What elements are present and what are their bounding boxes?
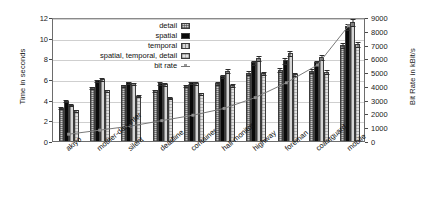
bit-rate-marker [67,133,70,136]
legend-swatch-icon [181,33,190,39]
legend-item: bit rate [100,61,190,70]
y-tick-mark-right [365,101,368,102]
y-axis-title-right: Bit Rate in kBit/s [408,17,417,137]
y-tick-label-right: 2000 [371,110,401,119]
y-tick-label-right: 1000 [371,124,401,133]
y-tick-label-left: 2 [26,117,48,126]
y-tick-label-right: 9000 [371,14,401,23]
legend-item: spatial [100,31,190,40]
plot-area [52,18,365,142]
legend-item: detail [100,21,190,30]
bit-rate-marker [160,119,163,122]
legend-swatch-icon [181,43,190,49]
y-tick-mark-right [365,32,368,33]
bit-rate-marker [285,81,288,84]
bit-rate-marker [347,24,350,27]
legend-label: detail [159,21,177,30]
y-tick-mark-right [365,18,368,19]
legend-item: temporal [100,41,190,50]
y-tick-mark-right [365,142,368,143]
y-tick-label-right: 5000 [371,69,401,78]
legend-swatch-icon [181,53,190,59]
y-tick-label-right: 6000 [371,55,401,64]
y-tick-label-right: 7000 [371,42,401,51]
y-tick-mark-right [365,114,368,115]
y-tick-label-right: 8000 [371,28,401,37]
legend-label: bit rate [154,61,177,70]
legend-line-icon [181,63,190,69]
y-tick-mark-right [365,59,368,60]
y-tick-label-right: 0 [371,138,401,147]
y-tick-label-left: 10 [26,35,48,44]
bit-rate-marker [98,129,101,132]
y-tick-mark-right [365,73,368,74]
y-tick-mark-right [365,46,368,47]
y-tick-label-left: 6 [26,76,48,85]
chart-legend: detailspatialtemporalspatial, temporal, … [100,21,190,70]
legend-item: spatial, temporal, detail [100,51,190,60]
legend-swatch-icon [181,23,190,29]
legend-label: spatial [155,31,177,40]
y-tick-label-left: 4 [26,97,48,106]
y-tick-mark-right [365,87,368,88]
y-tick-label-left: 12 [26,14,48,23]
bit-rate-marker [316,64,319,67]
bar-chart-figure: Time in seconds Bit Rate in kBit/s 02468… [0,0,434,212]
bit-rate-marker [223,107,226,110]
y-tick-mark-right [365,128,368,129]
y-tick-label-left: 0 [26,138,48,147]
y-tick-mark-left [49,142,52,143]
y-tick-label-right: 4000 [371,83,401,92]
bit-rate-marker [254,96,257,99]
legend-label: spatial, temporal, detail [100,51,177,60]
y-tick-label-right: 3000 [371,97,401,106]
y-tick-label-left: 8 [26,55,48,64]
bit-rate-marker [191,114,194,117]
legend-label: temporal [148,41,177,50]
